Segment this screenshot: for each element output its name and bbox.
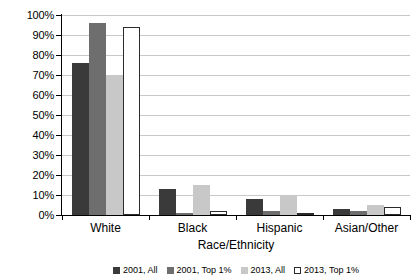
bar [72,63,89,215]
y-axis-tick [56,75,61,76]
bar [193,185,210,215]
bar-group [159,15,227,215]
y-axis-label: 100% [6,10,54,21]
y-axis-tick [56,175,61,176]
y-axis-tick [56,55,61,56]
y-axis-label: 0% [6,210,54,221]
legend-swatch [113,267,120,274]
y-axis-label: 30% [6,150,54,161]
legend-label: 2013, All [251,266,286,275]
bar-chart: 100%90%80%70%60%50%40%30%20%10%0% WhiteB… [0,0,418,276]
x-axis-title: Race/Ethnicity [62,239,410,252]
bar [106,75,123,215]
x-axis-tick [323,215,324,220]
bar [123,27,140,215]
legend-label: 2001, Top 1% [177,266,232,275]
legend-item: 2001, Top 1% [167,266,232,275]
y-axis-tick [56,155,61,156]
y-axis-tick [56,15,61,16]
y-axis-tick [56,215,61,216]
x-axis-tick [410,215,411,220]
x-axis-tick [62,215,63,220]
legend-swatch [241,267,248,274]
y-axis-tick [56,95,61,96]
bar [89,23,106,215]
y-axis-label: 60% [6,90,54,101]
bar [367,205,384,215]
y-axis-label: 40% [6,130,54,141]
legend-item: 2013, Top 1% [294,266,359,275]
legend-label: 2013, Top 1% [304,266,359,275]
bar-group [72,15,140,215]
legend-label: 2001, All [123,266,158,275]
bar [246,199,263,215]
x-axis-category-label: Asian/Other [312,222,418,235]
y-axis-tick [56,135,61,136]
y-axis-label: 70% [6,70,54,81]
bar [159,189,176,215]
plot-area [62,15,410,215]
bar-group [246,15,314,215]
y-axis-label: 80% [6,50,54,61]
legend-item: 2013, All [241,266,286,275]
y-axis-tick [56,195,61,196]
legend-swatch [167,267,174,274]
y-axis-label: 10% [6,190,54,201]
y-axis-label: 90% [6,30,54,41]
legend-swatch [294,267,301,274]
bar-group [333,15,401,215]
y-axis-label: 50% [6,110,54,121]
legend: 2001, All2001, Top 1%2013, All2013, Top … [62,266,410,276]
y-axis-tick [56,35,61,36]
legend-item: 2001, All [113,266,158,275]
bar [280,195,297,215]
y-axis-tick [56,115,61,116]
x-axis-tick [149,215,150,220]
y-axis-line [61,14,62,216]
bar [384,207,401,215]
x-axis-tick [236,215,237,220]
y-axis-label: 20% [6,170,54,181]
